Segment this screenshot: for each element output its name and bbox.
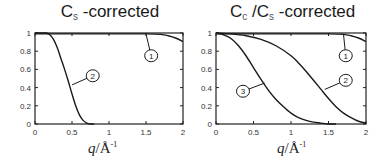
- x-axis-label-cs: q/Å-1: [88, 140, 117, 157]
- y-tick-label: 1: [208, 29, 213, 38]
- x-tick-label: 2: [364, 128, 369, 137]
- x-axis-label-cc-cs: q/Å-1: [277, 140, 306, 157]
- x-label-unit: /Å: [285, 140, 300, 156]
- callout-label-1: 1: [344, 52, 349, 61]
- x-label-q: q: [277, 140, 285, 156]
- x-tick-label: 1.5: [323, 128, 335, 137]
- chart-plot-cc-cs: 00.20.40.60.8100.511.52123: [0, 0, 384, 140]
- x-label-exp: -1: [111, 140, 118, 149]
- x-tick-label: 0.5: [248, 128, 260, 137]
- x-label-q: q: [88, 140, 96, 156]
- callout-label-2: 2: [344, 76, 349, 85]
- callout-label-3: 3: [241, 87, 246, 96]
- x-tick-label: 0: [214, 128, 219, 137]
- y-tick-label: 0: [208, 120, 213, 129]
- x-label-exp: -1: [300, 140, 307, 149]
- x-tick-label: 1: [289, 128, 294, 137]
- x-label-unit: /Å: [96, 140, 111, 156]
- y-tick-label: 0.6: [201, 65, 213, 74]
- y-tick-label: 0.2: [201, 102, 213, 111]
- curve-3: [216, 33, 336, 124]
- y-tick-label: 0.8: [201, 47, 213, 56]
- y-tick-label: 0.4: [201, 84, 213, 93]
